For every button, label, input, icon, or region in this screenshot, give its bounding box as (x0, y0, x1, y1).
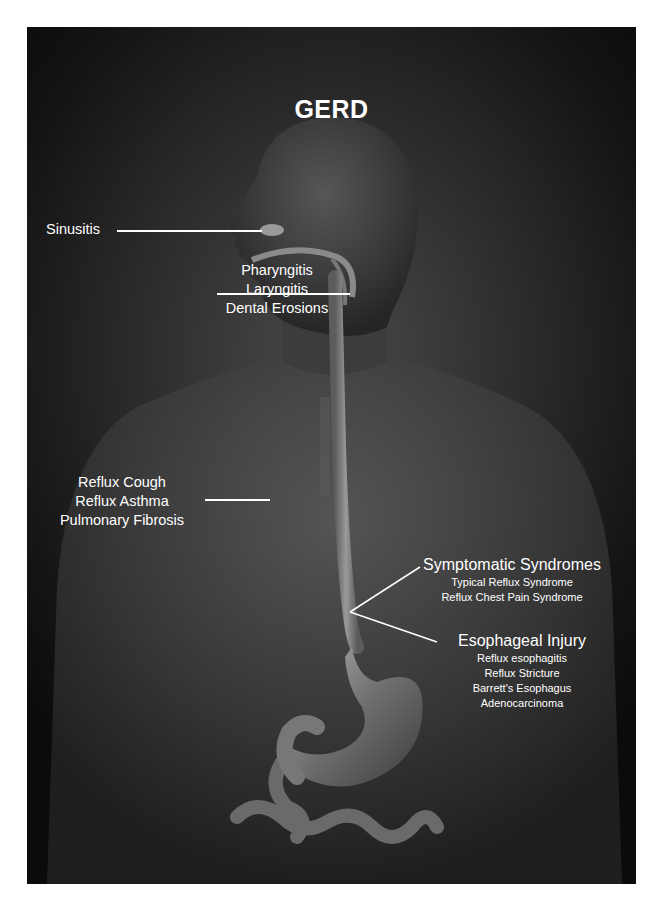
gerd-illustration-frame: GERD Sinusitis Pharyngitis Laryngitis De… (27, 27, 636, 884)
esophagus-leader-lines (27, 27, 636, 884)
